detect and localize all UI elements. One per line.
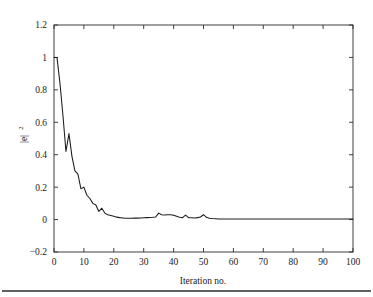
figure-container: −0.200.20.40.60.811.2 010203040506070809…: [0, 0, 373, 297]
x-tick-label: 40: [169, 257, 179, 267]
y-tick-label: 0.4: [35, 150, 47, 160]
error-convergence-chart: −0.200.20.40.60.811.2 010203040506070809…: [0, 0, 373, 297]
y-axis-title-base: |e|: [19, 135, 29, 143]
y-tick-label: 0.6: [35, 118, 47, 128]
x-tick-label: 50: [199, 257, 209, 267]
x-tick-label: 100: [346, 257, 361, 267]
y-tick-label: 1.2: [35, 20, 47, 30]
x-tick-label: 90: [318, 257, 328, 267]
x-tick-label: 20: [109, 257, 119, 267]
x-tick-label: 0: [52, 257, 57, 267]
y-tick-label: 0.2: [35, 183, 47, 193]
y-tick-label: 1: [42, 53, 47, 63]
x-tick-label: 30: [139, 257, 149, 267]
y-tick-label: 0: [42, 215, 47, 225]
x-axis-title: Iteration no.: [180, 276, 226, 286]
x-tick-label: 10: [79, 257, 89, 267]
x-tick-label: 70: [259, 257, 269, 267]
x-tick-label: 60: [229, 257, 239, 267]
x-tick-label: 80: [288, 257, 298, 267]
y-tick-label: 0.8: [35, 85, 47, 95]
y-axis-title-exponent: 2: [17, 126, 24, 129]
y-tick-label: −0.2: [30, 247, 47, 257]
